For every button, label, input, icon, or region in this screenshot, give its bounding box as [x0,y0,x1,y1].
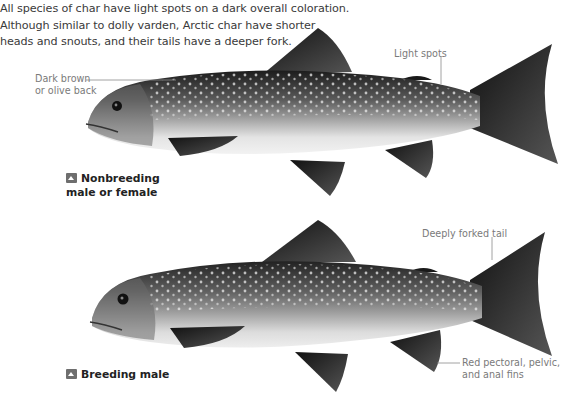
caption-line: Nonbreeding [81,172,160,185]
fish-illustrations [0,0,588,403]
triangle-up-badge-icon [66,369,77,379]
callout-red-fins: Red pectoral, pelvic, and anal fins [462,357,560,380]
callout-line: Dark brown [35,73,97,85]
callout-back-color: Dark brown or olive back [35,73,97,96]
caption-breeding-male: Breeding male [66,368,169,382]
triangle-up-badge-icon [66,173,77,183]
caption-line: Breeding male [81,368,169,381]
callout-line: Deeply forked tail [422,228,507,240]
fish-nonbreeding [86,28,558,196]
caption-line: male or female [66,186,160,200]
callout-line: or olive back [35,85,97,97]
callout-light-spots: Light spots [394,48,447,60]
callout-line: Light spots [394,48,447,60]
callout-forked-tail: Deeply forked tail [422,228,507,240]
caption-nonbreeding: Nonbreeding male or female [66,172,160,200]
callout-line: Red pectoral, pelvic, [462,357,560,369]
callout-line: and anal fins [462,369,560,381]
